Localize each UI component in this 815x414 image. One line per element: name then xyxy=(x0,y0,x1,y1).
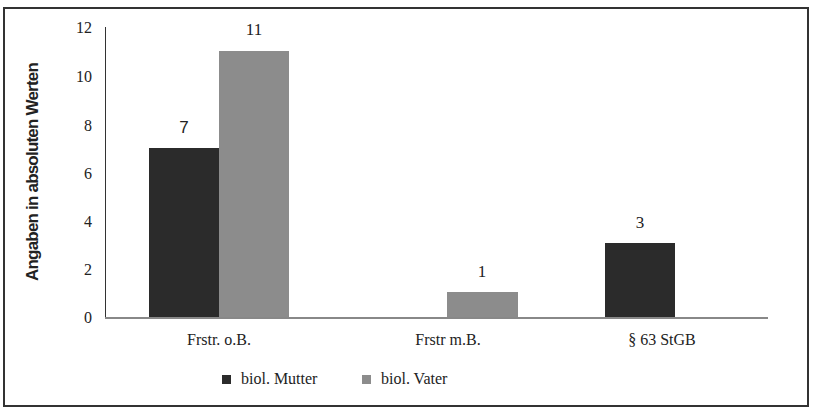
data-label-vater-frstr-ob: 11 xyxy=(219,20,289,40)
data-label-mutter-frstr-ob: 7 xyxy=(149,118,219,138)
data-label-mutter-63-stgb: 3 xyxy=(605,213,675,233)
legend-label-vater: biol. Vater xyxy=(381,370,447,388)
bar-vater-frstr-mb xyxy=(447,292,518,317)
x-category-63-stgb: § 63 StGB xyxy=(572,331,752,349)
legend-swatch-vater xyxy=(362,375,371,384)
bar-vater-frstr-ob xyxy=(219,51,289,317)
legend-item-mutter: biol. Mutter xyxy=(222,370,317,388)
y-axis-label: Angaben in absoluten Werten xyxy=(23,42,43,302)
y-axis-line xyxy=(105,27,106,318)
x-category-frstr-ob: Frstr. o.B. xyxy=(129,331,309,349)
y-tick-2: 2 xyxy=(62,262,92,278)
x-axis-line xyxy=(105,317,768,319)
data-label-vater-frstr-mb: 1 xyxy=(447,262,517,282)
y-tick-12: 12 xyxy=(62,20,92,36)
legend-label-mutter: biol. Mutter xyxy=(241,370,317,388)
bar-mutter-63-stgb xyxy=(605,243,675,317)
y-tick-0: 0 xyxy=(62,310,92,326)
legend-item-vater: biol. Vater xyxy=(362,370,447,388)
y-tick-10: 10 xyxy=(62,69,92,85)
legend-swatch-mutter xyxy=(222,375,231,384)
y-tick-4: 4 xyxy=(62,214,92,230)
y-tick-8: 8 xyxy=(62,118,92,134)
bar-mutter-frstr-ob xyxy=(149,148,219,317)
y-tick-6: 6 xyxy=(62,166,92,182)
x-category-frstr-mb: Frstr m.B. xyxy=(358,331,538,349)
